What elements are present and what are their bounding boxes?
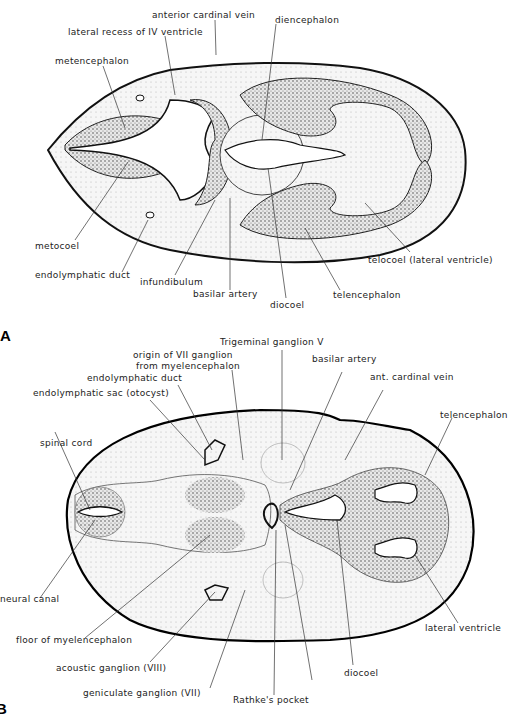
label-endolymphatic-duct-b: endolymphatic duct — [87, 373, 182, 383]
label-ant-cardinal-vein: ant. cardinal vein — [370, 372, 454, 382]
label-floor-myelencephalon: floor of myelencephalon — [16, 635, 132, 645]
panel-a-section — [48, 63, 466, 262]
label-lateral-recess: lateral recess of IV ventricle — [68, 27, 203, 37]
panel-label-b: B — [0, 700, 7, 716]
label-telocoel: telocoel (lateral ventricle) — [368, 255, 493, 265]
label-anterior-cardinal-vein: anterior cardinal vein — [152, 10, 255, 20]
label-endolymphatic-sac: endolymphatic sac (otocyst) — [33, 388, 169, 398]
label-acoustic-ganglion: acoustic ganglion (VIII) — [56, 663, 166, 673]
label-rathkes-pocket: Rathke's pocket — [233, 695, 309, 705]
label-diocoel-b: diocoel — [344, 668, 378, 678]
label-infundibulum: infundibulum — [140, 277, 203, 287]
label-metocoel: metocoel — [35, 241, 79, 251]
label-spinal-cord: spinal cord — [40, 438, 93, 448]
label-neural-canal: neural canal — [0, 594, 59, 604]
panel-label-a: A — [0, 327, 11, 344]
label-diocoel-a: diocoel — [270, 300, 304, 310]
panel-b-section — [67, 410, 473, 641]
label-telencephalon-a: telencephalon — [333, 290, 401, 300]
label-origin-vii-line2: from myelencephalon — [136, 361, 240, 371]
label-origin-vii-line1: origin of VII ganglion — [133, 350, 233, 360]
label-telencephalon-b: telencephalon — [440, 410, 508, 420]
label-lateral-ventricle: lateral ventricle — [425, 623, 501, 633]
label-diencephalon: diencephalon — [275, 15, 339, 25]
label-endolymphatic-duct-a: endolymphatic duct — [35, 270, 130, 280]
label-trigeminal-ganglion: Trigeminal ganglion V — [220, 337, 324, 347]
label-geniculate-ganglion: geniculate ganglion (VII) — [83, 688, 201, 698]
label-basilar-artery-b: basilar artery — [312, 354, 377, 364]
label-metencephalon: metencephalon — [55, 56, 129, 66]
label-basilar-artery-a: basilar artery — [193, 289, 258, 299]
